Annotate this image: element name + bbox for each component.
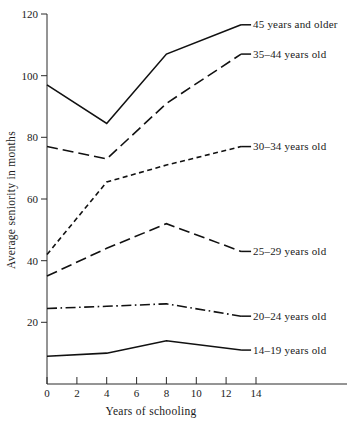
y-tick-label-80: 80 (27, 131, 39, 143)
series-label-30-34-years-old: 30–34 years old (253, 140, 327, 152)
y-axis-tick-labels: 120 100 80 60 40 20 (22, 8, 39, 328)
series-lines (47, 25, 241, 356)
x-tick-label-4: 4 (104, 387, 110, 399)
x-tick-label-10: 10 (191, 387, 203, 399)
y-tick-label-20: 20 (27, 316, 39, 328)
y-tick-label-100: 100 (22, 70, 39, 82)
chart-container: 120 100 80 60 40 20 0 2 4 6 8 10 12 (0, 0, 357, 427)
x-tick-label-6: 6 (134, 387, 140, 399)
series-label-14-19-years-old: 14–19 years old (253, 344, 327, 356)
series-label-25-29-years-old: 25–29 years old (253, 245, 327, 257)
series-line-35-44-years-old (47, 54, 241, 159)
series-label-45-years-and-older: 45 years and older (253, 18, 338, 30)
series-labels: 45 years and older 35–44 years old 30–34… (253, 18, 338, 355)
series-label-35-44-years-old: 35–44 years old (253, 48, 327, 60)
series-line-14-19-years-old (47, 341, 241, 356)
y-tick-label-120: 120 (22, 8, 39, 20)
x-tick-label-12: 12 (221, 387, 232, 399)
x-tick-label-14: 14 (251, 387, 263, 399)
x-axis-title: Years of schooling (105, 405, 196, 418)
x-tick-label-8: 8 (164, 387, 170, 399)
y-tick-label-60: 60 (27, 193, 39, 205)
line-chart-svg: 120 100 80 60 40 20 0 2 4 6 8 10 12 (0, 0, 357, 427)
y-tick-label-40: 40 (27, 255, 39, 267)
series-line-20-24-years-old (47, 304, 241, 316)
y-axis-title: Average seniority in months (5, 131, 18, 269)
series-line-25-29-years-old (47, 224, 241, 276)
y-axis-ticks (41, 14, 47, 322)
x-tick-label-2: 2 (74, 387, 80, 399)
series-label-20-24-years-old: 20–24 years old (253, 310, 327, 322)
series-leaders (241, 25, 251, 350)
x-axis-ticks (47, 377, 256, 384)
x-axis-tick-labels: 0 2 4 6 8 10 12 14 (44, 387, 262, 399)
x-tick-label-0: 0 (44, 387, 50, 399)
series-line-30-34-years-old (47, 147, 241, 255)
